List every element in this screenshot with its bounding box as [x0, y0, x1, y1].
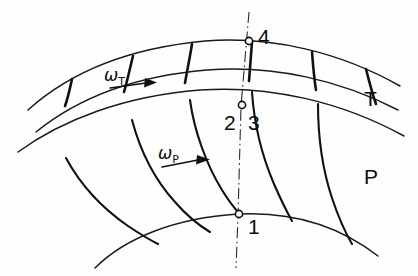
station-marker-1[interactable] [235, 210, 242, 217]
pump-row-group [66, 92, 378, 268]
turbine-blade [249, 42, 252, 81]
turbine-inner-arc [36, 69, 398, 132]
omega-turbine-subscript: T [118, 75, 125, 88]
diagram-canvas: 4 2 3 1 T P ωT ωP [0, 0, 418, 276]
pump-inner-arc [95, 214, 378, 268]
row-label-pump: P [364, 166, 378, 187]
station-marker-4[interactable] [245, 37, 252, 44]
turbine-blade [185, 44, 192, 83]
pump-outer-arc [18, 89, 404, 152]
station-marker-23[interactable] [238, 101, 245, 108]
station-label-4: 4 [258, 26, 270, 47]
station-label-2: 2 [224, 112, 236, 133]
turbine-blade [65, 79, 72, 106]
omega-turbine-label: ωT [104, 67, 125, 87]
turbine-blade [312, 52, 316, 90]
omega-pump-subscript: P [172, 153, 179, 166]
cascade-diagram-svg [0, 0, 418, 276]
station-label-1: 1 [248, 216, 260, 237]
turbine-row-group [28, 40, 400, 132]
station-label-3: 3 [248, 112, 260, 133]
pump-blade [318, 104, 352, 244]
turbine-outer-arc [28, 40, 400, 110]
omega-pump-symbol: ω [158, 143, 172, 163]
omega-turbine-symbol: ω [104, 65, 118, 85]
pump-blade [66, 158, 158, 244]
interface-band-group [18, 89, 404, 152]
omega-pump-label: ωP [158, 145, 179, 165]
row-label-turbine: T [364, 88, 377, 109]
